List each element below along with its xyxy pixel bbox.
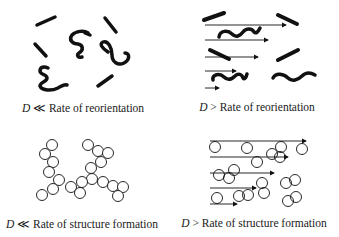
caption-top-right: D > Rate of reorientation [192,101,322,113]
relation-symbol: ≪ [33,102,46,114]
relation-symbol: > [192,217,199,229]
caption-text: Rate of structure formation [33,218,158,230]
panel-bottom-right: D > Rate of structure formation [170,120,339,237]
relation-symbol: ≪ [17,218,30,230]
diffusion-symbol: D [6,218,14,230]
diffusion-symbol: D [199,101,207,113]
caption-top-left: D ≪ Rate of reorientation [18,101,148,115]
panel-top-right: D > Rate of reorientation [170,0,339,120]
relation-symbol: > [210,101,217,113]
panel-bottom-left: D ≪ Rate of structure formation [0,120,170,237]
caption-text: Rate of reorientation [220,101,315,113]
flow-arrows [210,141,306,204]
diffusion-symbol: D [181,217,189,229]
panel-top-left: D ≪ Rate of reorientation [0,0,170,120]
diffusion-symbol: D [22,102,30,114]
caption-text: Rate of structure formation [202,217,327,229]
caption-text: Rate of reorientation [49,102,144,114]
caption-bottom-right: D > Rate of structure formation [173,217,335,229]
caption-bottom-left: D ≪ Rate of structure formation [2,217,162,231]
